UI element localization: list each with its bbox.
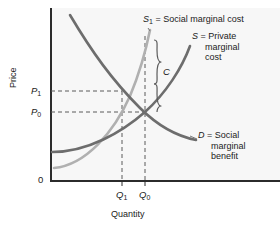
curve-label-d-text: = Social bbox=[207, 130, 239, 140]
annotation-label-c: C bbox=[163, 66, 170, 77]
curve-label-s-line2: marginal bbox=[192, 42, 240, 53]
curve-label-d-line2: marginal bbox=[198, 141, 246, 152]
curve-label-d-base: D bbox=[198, 130, 205, 140]
curve-label-s1-sub: 1 bbox=[149, 18, 153, 25]
tick-label-q0: Q0 bbox=[139, 189, 150, 200]
tick-label-p1: P1 bbox=[31, 85, 41, 96]
tick-label-p1-sub: 1 bbox=[37, 90, 41, 97]
curve-label-s-base: S bbox=[192, 31, 198, 41]
curve-label-s-text: = Private bbox=[201, 31, 237, 41]
tick-label-q1: Q1 bbox=[116, 189, 127, 200]
tick-label-p0: P0 bbox=[31, 106, 41, 117]
tick-label-q1-sub: 1 bbox=[123, 194, 127, 201]
tick-label-q0-sub: 0 bbox=[146, 194, 150, 201]
curve-label-s-line3: cost bbox=[192, 52, 240, 63]
curve-label-s1: S1 = Social marginal cost bbox=[143, 14, 244, 25]
tick-label-p0-sub: 0 bbox=[37, 111, 41, 118]
curve-label-s1-text: = Social marginal cost bbox=[155, 14, 243, 24]
y-axis-title: Price bbox=[8, 67, 19, 88]
supply-demand-chart: Price Quantity 0 P1 P0 Q1 Q0 S1 = Social… bbox=[0, 0, 280, 228]
x-axis-title: Quantity bbox=[111, 209, 145, 220]
origin-label: 0 bbox=[38, 174, 43, 185]
curve-label-d-line3: benefit bbox=[198, 151, 246, 162]
curve-label-s: S = Private marginal cost bbox=[192, 31, 240, 63]
curve-label-d: D = Social marginal benefit bbox=[198, 130, 246, 162]
